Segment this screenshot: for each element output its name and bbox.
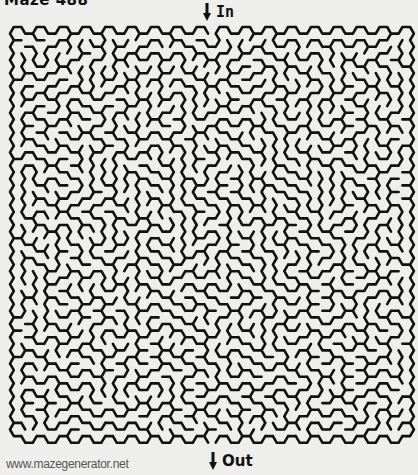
exit-marker: Out: [209, 452, 253, 470]
hex-maze-grid[interactable]: [0, 0, 418, 475]
exit-label: Out: [222, 452, 253, 470]
footer-credit: www.mazegenerator.net: [6, 457, 128, 471]
down-arrow-icon: [209, 452, 217, 470]
maze-walls: [10, 27, 414, 443]
